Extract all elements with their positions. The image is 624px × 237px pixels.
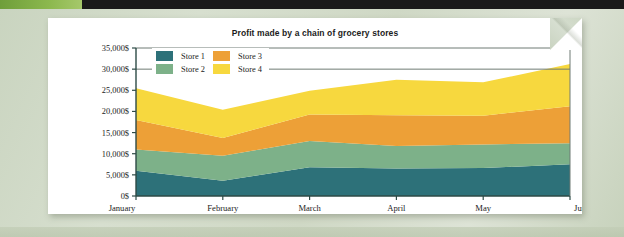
top-black-bar xyxy=(0,0,624,9)
chart-container: Profit made by a chain of grocery stores… xyxy=(48,18,582,214)
y-tick-label-25000: 25,000$ xyxy=(102,86,129,95)
legend-label-store-1: Store 1 xyxy=(181,52,205,61)
x-tick-label-june: June xyxy=(574,203,582,213)
page-fold-shadow xyxy=(550,18,582,50)
y-tick-label-15000: 15,000$ xyxy=(102,129,129,138)
paper-sheet: Profit made by a chain of grocery stores… xyxy=(48,18,582,214)
chart-legend: Store 1 Store 3 Store 2 Store 4 xyxy=(152,48,269,77)
y-tick-label-20000: 20,000$ xyxy=(102,107,129,116)
x-tick-label-april: April xyxy=(387,203,406,213)
y-tick-label-35000: 35,000$ xyxy=(102,44,129,53)
y-tick-label-5000: 5,000$ xyxy=(106,171,129,180)
x-tick-label-may: May xyxy=(475,203,491,213)
legend-label-store-4: Store 4 xyxy=(238,65,262,74)
x-tick-label-february: February xyxy=(207,203,239,213)
stacked-area-plot: 0$5,000$10,000$15,000$20,000$25,000$30,0… xyxy=(48,18,582,214)
y-tick-label-10000: 10,000$ xyxy=(102,150,129,159)
x-tick-label-march: March xyxy=(298,203,321,213)
legend-swatch-store-2 xyxy=(156,64,173,74)
y-tick-label-30000: 30,000$ xyxy=(102,65,129,74)
legend-label-store-3: Store 3 xyxy=(238,52,262,61)
legend-label-store-2: Store 2 xyxy=(181,65,205,74)
series-areas-group xyxy=(136,64,570,196)
legend-swatch-store-4 xyxy=(213,64,230,74)
y-tick-label-0: 0$ xyxy=(121,192,129,201)
x-tick-labels-group: JanuaryFebruaryMarchAprilMayJune xyxy=(109,203,582,213)
legend-swatch-store-3 xyxy=(213,51,230,61)
top-green-accent-bar xyxy=(0,0,82,9)
y-tick-labels-group: 0$5,000$10,000$15,000$20,000$25,000$30,0… xyxy=(102,44,129,201)
x-tick-label-january: January xyxy=(109,203,136,213)
bottom-shadow-band xyxy=(0,227,624,237)
legend-swatch-store-1 xyxy=(156,51,173,61)
